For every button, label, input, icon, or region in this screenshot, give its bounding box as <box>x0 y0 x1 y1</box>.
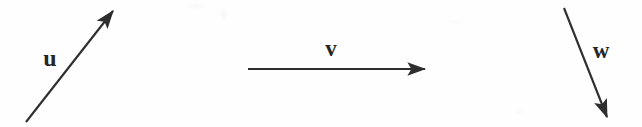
vector-label-u: u <box>43 46 56 70</box>
vector-label-v: v <box>325 37 337 60</box>
vector-arrow-w <box>564 8 607 117</box>
vector-diagram-figure: u v w <box>0 0 642 127</box>
vector-arrow-u <box>26 11 113 122</box>
vector-label-w: w <box>593 39 610 62</box>
vector-drawing-canvas <box>0 0 642 127</box>
